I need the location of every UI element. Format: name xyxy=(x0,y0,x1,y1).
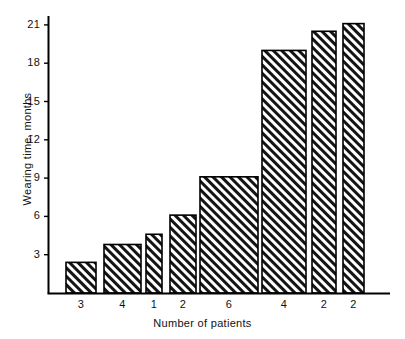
y-axis-title-wrapper: Wearing time, months xyxy=(21,59,35,239)
bar xyxy=(146,234,162,293)
x-axis-tick-label: 1 xyxy=(142,299,166,310)
x-axis-tick-label: 2 xyxy=(342,299,366,310)
bar xyxy=(66,262,96,293)
bar xyxy=(200,177,258,293)
x-axis-title: Number of patients xyxy=(0,317,405,329)
bar-chart-figure: 36912151821 34126422 Wearing time, month… xyxy=(0,0,405,339)
bar xyxy=(170,215,196,293)
y-axis-tick-label: 3 xyxy=(20,249,40,260)
chart-plot-area xyxy=(0,0,405,339)
x-axis-tick-label: 3 xyxy=(69,299,93,310)
bar xyxy=(343,24,364,293)
x-axis-tick-label: 2 xyxy=(312,299,336,310)
bar xyxy=(312,31,336,293)
x-axis-tick-label: 4 xyxy=(272,299,296,310)
y-axis-tick-label: 21 xyxy=(20,19,40,30)
x-axis-tick-label: 6 xyxy=(217,299,241,310)
x-axis-tick-label: 4 xyxy=(111,299,135,310)
y-axis-title: Wearing time, months xyxy=(21,59,33,239)
bar-series xyxy=(66,24,364,293)
x-axis-tick-label: 2 xyxy=(171,299,195,310)
bar xyxy=(104,244,141,293)
bar xyxy=(262,50,306,293)
